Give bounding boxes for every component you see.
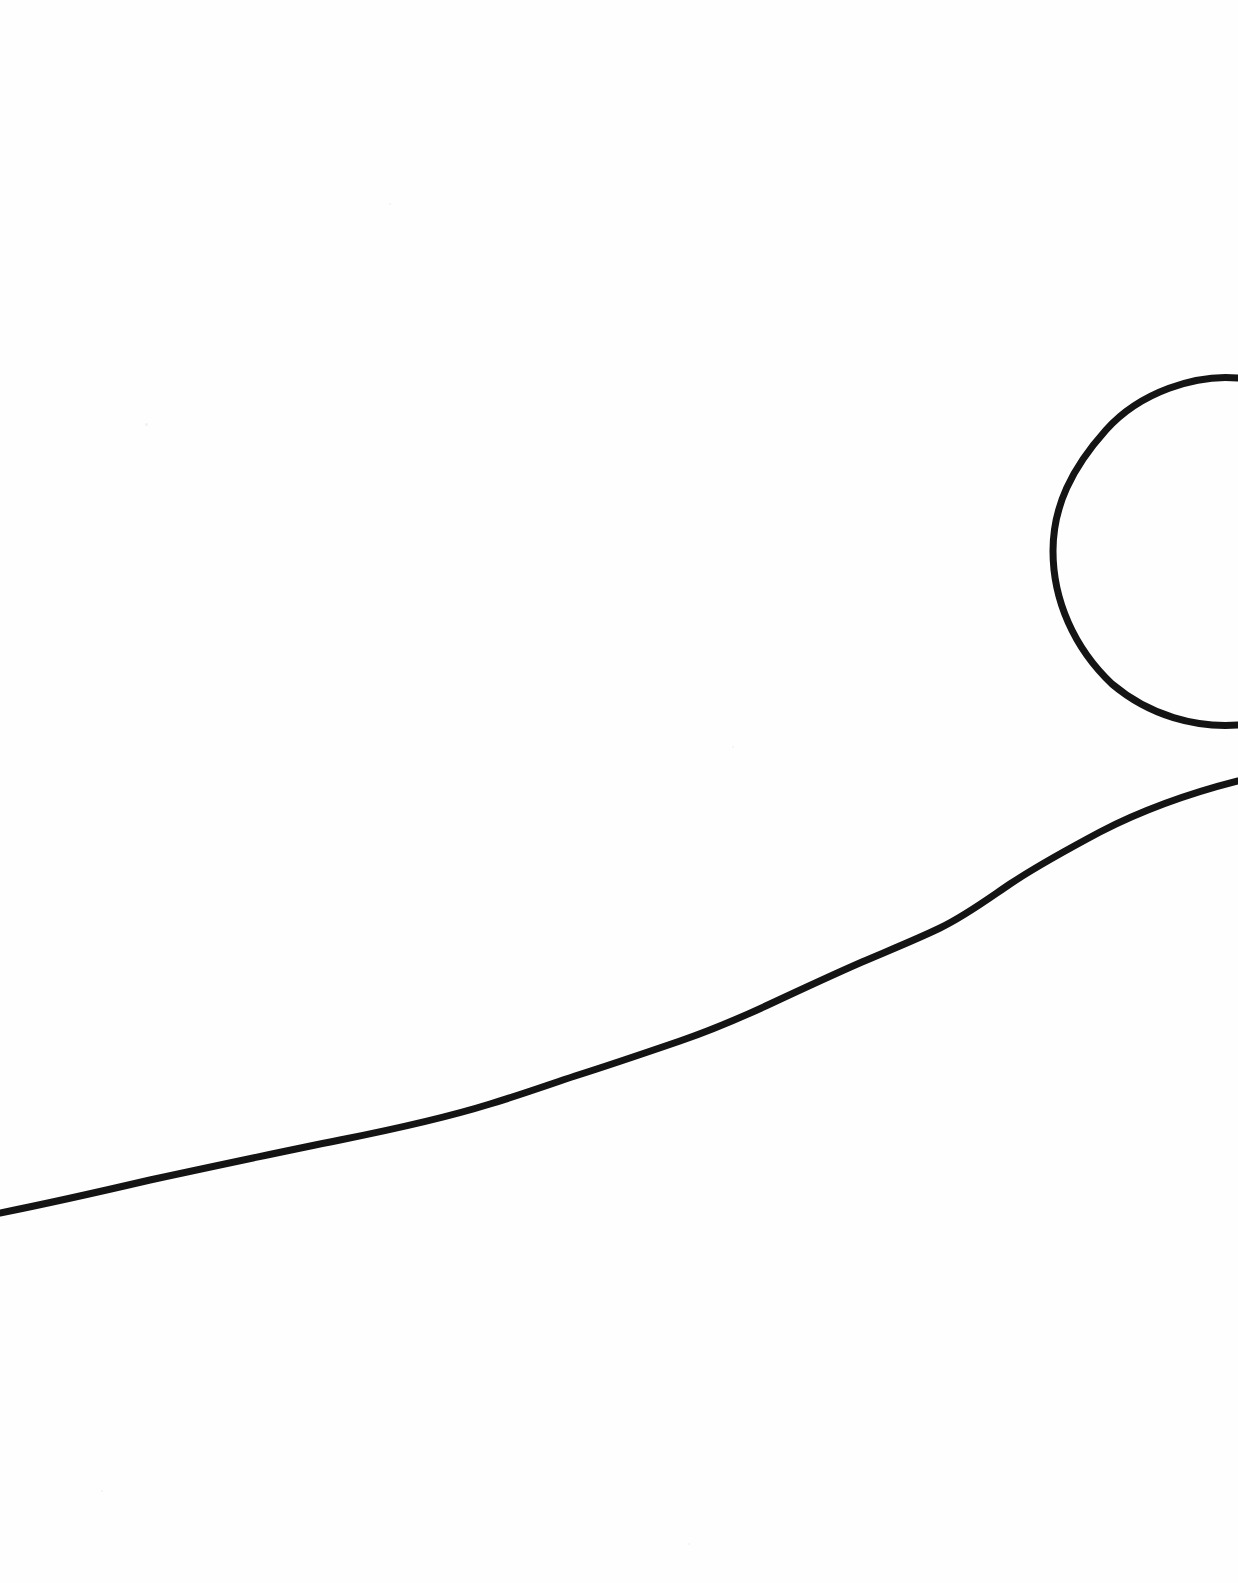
drawing-surface — [0, 0, 1238, 1583]
page-canvas — [0, 0, 1238, 1583]
diagonal-line-stroke — [0, 781, 1238, 1213]
circle-arc-stroke — [1053, 377, 1238, 725]
